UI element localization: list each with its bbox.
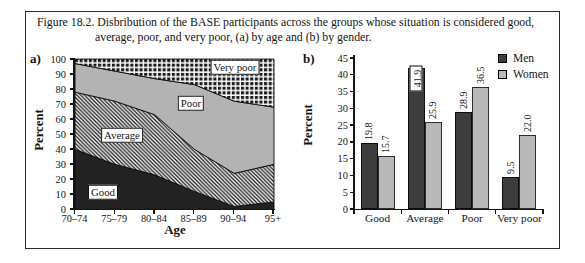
- bar-women-poor: [472, 87, 489, 209]
- y-tick-label-a: 30: [40, 159, 66, 170]
- bar-women-good: [378, 156, 395, 209]
- bar-value-label-men-poor: 28.9: [458, 73, 470, 109]
- bar-value-label-women-good: 15.7: [380, 117, 392, 153]
- y-tick-label-a: 20: [40, 174, 66, 185]
- bar-value-label-men-good: 19.8: [363, 104, 375, 140]
- men-swatch: [498, 54, 507, 63]
- y-tick-label-b: 35: [327, 86, 348, 97]
- x-tick-label-a: 85–89: [172, 213, 216, 224]
- y-tick-label-b: 5: [327, 187, 348, 198]
- x-tick-label-a: 90–94: [211, 213, 255, 224]
- x-tick-label-a: 95+: [251, 213, 295, 224]
- figure-18-2: Figure 18.2. Disbribution of the BASE pa…: [0, 0, 585, 263]
- y-tick-label-a: 10: [40, 189, 66, 200]
- y-tick-label-a: 80: [40, 84, 66, 95]
- y-tick-label-a: 70: [40, 99, 66, 110]
- area-label-good: Good: [88, 185, 118, 200]
- y-axis-title-b: Percent: [301, 95, 315, 155]
- y-tick-label-a: 60: [40, 114, 66, 125]
- bar-value-label-women-average: 25.9: [427, 83, 439, 119]
- bar-value-label-women-poor: 36.5: [475, 48, 487, 84]
- caption-line-2: average, poor, and very poor, (a) by age…: [95, 30, 372, 45]
- x-tick-label-b: Very poor: [487, 213, 551, 224]
- legend-label-men: Men: [513, 52, 534, 64]
- bar-value-label-men-average: 41.9: [410, 65, 423, 91]
- y-tick-label-b: 30: [327, 103, 348, 114]
- y-tick-label-a: 40: [40, 144, 66, 155]
- bar-men-poor: [455, 112, 472, 209]
- bar-men-good: [361, 143, 378, 209]
- bar-value-label-women-very-poor: 22.0: [522, 96, 534, 132]
- legend-item-men: Men: [498, 50, 548, 66]
- caption-line-1: Figure 18.2. Disbribution of the BASE pa…: [37, 15, 534, 30]
- legend: Men Women: [498, 50, 548, 82]
- area-label-poor: Poor: [178, 96, 204, 111]
- women-swatch: [498, 70, 507, 79]
- x-tick-label-a: 70–74: [53, 213, 97, 224]
- panel-b-label: b): [303, 52, 315, 65]
- bar-women-very-poor: [519, 135, 536, 209]
- y-tick-label-b: 45: [327, 53, 348, 64]
- y-tick-label-b: 10: [327, 170, 348, 181]
- bar-women-average: [425, 122, 442, 209]
- x-axis-a: [73, 209, 275, 210]
- y-tick-label-b: 25: [327, 120, 348, 131]
- y-tick-label-a: 50: [40, 129, 66, 140]
- y-tick-label-a: 100: [40, 54, 66, 65]
- y-tick-label-b: 40: [327, 69, 348, 80]
- y-tick-label-b: 20: [327, 136, 348, 147]
- area-label-average: Average: [101, 128, 143, 143]
- y-axis-a: [73, 58, 74, 210]
- y-axis-b: [353, 55, 354, 210]
- y-tick-label-b: 15: [327, 153, 348, 164]
- legend-item-women: Women: [498, 66, 548, 82]
- x-tick-label-a: 80–84: [132, 213, 176, 224]
- x-tick-label-a: 75–79: [92, 213, 136, 224]
- bar-value-label-men-very-poor: 9.5: [505, 138, 517, 174]
- x-axis-title-a: Age: [145, 223, 205, 237]
- bar-men-very-poor: [502, 177, 519, 209]
- y-tick-label-a: 90: [40, 69, 66, 80]
- legend-label-women: Women: [513, 68, 548, 80]
- area-label-very-poor: Very poor: [211, 60, 260, 75]
